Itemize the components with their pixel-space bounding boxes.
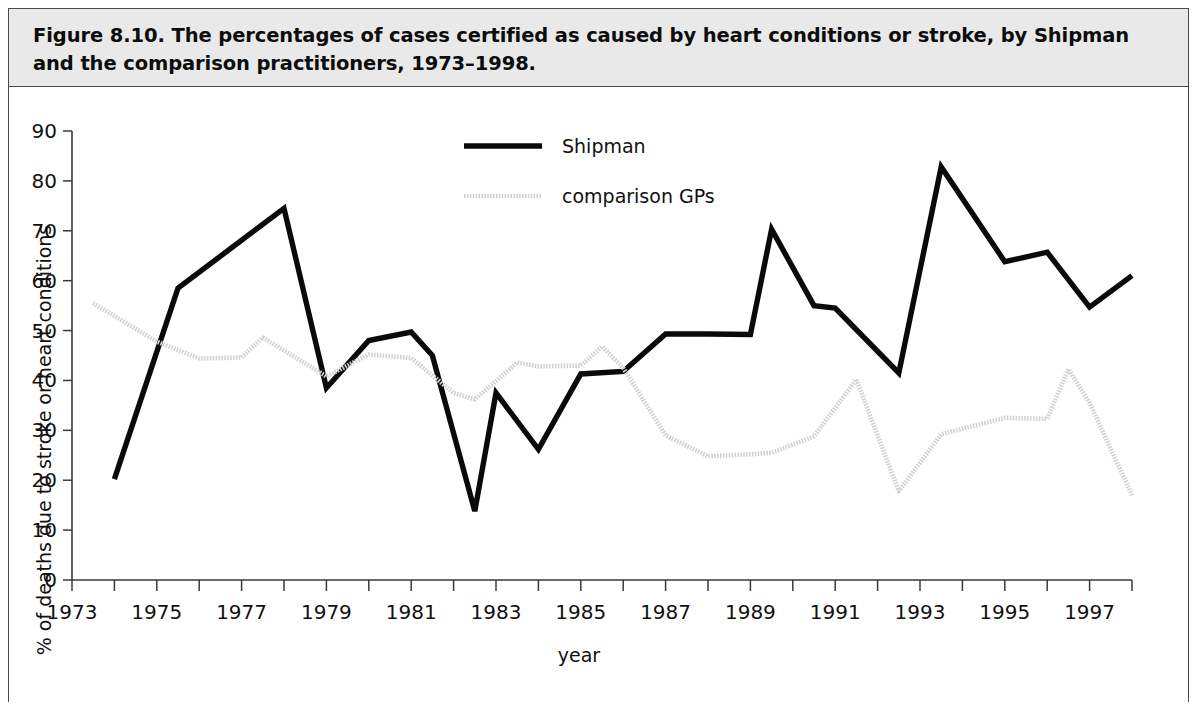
chart-series	[93, 167, 1132, 511]
x-tick-label: 1983	[471, 600, 522, 624]
figure-caption: Figure 8.10. The percentages of cases ce…	[33, 22, 1153, 77]
x-tick-label: 1991	[810, 600, 861, 624]
x-tick-label: 1975	[131, 600, 182, 624]
x-tick-label: 1985	[555, 600, 606, 624]
y-axis-title: % of deaths due to stroke or heart condi…	[33, 225, 55, 656]
chart-legend: Shipmancomparison GPs	[464, 135, 715, 207]
x-tick-label: 1993	[895, 600, 946, 624]
x-tick-label: 1979	[301, 600, 352, 624]
legend-label-comparison-gps: comparison GPs	[562, 185, 715, 207]
x-tick-label: 1995	[979, 600, 1030, 624]
x-tick-label: 1987	[640, 600, 691, 624]
chart-plot-area: 0102030405060708090 19731975197719791981…	[9, 88, 1188, 702]
x-axis-tick-labels: 1973197519771979198119831985198719891991…	[47, 600, 1116, 624]
legend-label-shipman: Shipman	[562, 135, 646, 157]
x-tick-label: 1977	[216, 600, 267, 624]
x-tick-label: 1997	[1064, 600, 1115, 624]
series-line-comparison-gps	[93, 303, 1132, 495]
line-chart: 0102030405060708090 19731975197719791981…	[9, 88, 1188, 702]
x-axis-title: year	[558, 644, 601, 666]
x-tick-label: 1989	[725, 600, 776, 624]
y-tick-label: 90	[32, 119, 57, 143]
figure-frame: Figure 8.10. The percentages of cases ce…	[8, 8, 1189, 702]
x-tick-label: 1981	[386, 600, 437, 624]
figure-caption-band: Figure 8.10. The percentages of cases ce…	[9, 9, 1188, 87]
y-tick-label: 80	[32, 169, 57, 193]
